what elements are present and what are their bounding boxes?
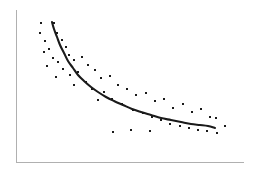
data-point: [109, 75, 112, 78]
data-point: [94, 69, 97, 72]
data-point: [44, 40, 47, 43]
data-point: [191, 111, 194, 114]
data-point: [69, 74, 72, 77]
data-point: [182, 103, 185, 106]
data-point: [126, 88, 129, 91]
data-point: [163, 98, 166, 101]
data-point: [149, 130, 152, 133]
data-point: [117, 84, 120, 87]
data-point: [154, 100, 157, 103]
data-point: [206, 130, 209, 133]
data-point: [100, 77, 103, 80]
data-point: [188, 127, 191, 130]
data-point: [62, 68, 65, 71]
data-point: [73, 84, 76, 87]
data-point: [46, 65, 49, 68]
data-point: [73, 59, 76, 62]
data-point: [97, 99, 100, 102]
data-point: [135, 94, 138, 97]
data-point: [197, 129, 200, 132]
data-point: [112, 131, 115, 134]
data-point: [209, 116, 212, 119]
data-point: [179, 125, 182, 128]
data-point: [55, 76, 58, 79]
data-point: [169, 123, 172, 126]
data-point: [61, 39, 64, 42]
scatter-plot-figure: [0, 0, 258, 175]
plot-canvas: [0, 0, 258, 175]
plot-background: [0, 0, 258, 175]
data-point: [103, 91, 106, 94]
data-point: [87, 64, 90, 67]
data-point: [40, 22, 43, 25]
data-point: [81, 56, 84, 59]
data-point: [172, 107, 175, 110]
data-point: [200, 108, 203, 111]
data-point: [130, 129, 133, 132]
data-point: [43, 51, 46, 54]
data-point: [52, 57, 55, 60]
data-point: [57, 61, 60, 64]
data-point: [65, 46, 68, 49]
data-point: [68, 54, 71, 57]
data-point: [215, 117, 218, 120]
data-point: [48, 48, 51, 51]
data-point: [39, 32, 42, 35]
data-point: [224, 125, 227, 128]
data-point: [145, 92, 148, 95]
data-point: [216, 132, 219, 135]
